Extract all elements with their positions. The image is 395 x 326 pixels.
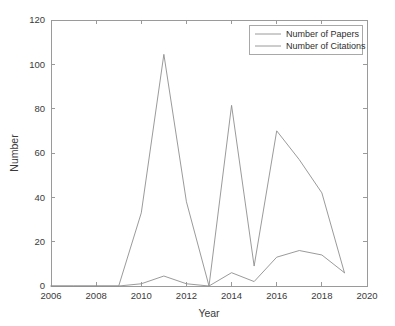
x-tick-label: 2020 — [356, 290, 377, 301]
data-series-group — [51, 54, 344, 286]
x-tick-label: 2012 — [176, 290, 197, 301]
x-axis-tick-labels: 20062008201020122014201620182020 — [40, 290, 377, 301]
y-axis-title: Number — [8, 134, 20, 172]
series-line — [51, 251, 344, 286]
y-tick-label: 60 — [34, 147, 45, 158]
y-tick-label: 100 — [29, 59, 45, 70]
x-tick-label: 2010 — [131, 290, 152, 301]
x-tick-label: 2006 — [40, 290, 61, 301]
y-tick-label: 40 — [34, 192, 45, 203]
x-tick-label: 2018 — [311, 290, 332, 301]
y-tick-label: 120 — [29, 14, 45, 25]
legend-item-label: Number of Papers — [286, 29, 360, 39]
line-chart: 020406080100120 200620082010201220142016… — [0, 0, 395, 326]
legend-item-label: Number of Citations — [286, 41, 366, 51]
axes-frame — [51, 20, 367, 286]
y-tick-label: 20 — [34, 236, 45, 247]
figure-canvas: 020406080100120 200620082010201220142016… — [0, 0, 395, 326]
x-axis-title: Year — [198, 307, 220, 319]
x-tick-label: 2016 — [266, 290, 287, 301]
axis-tick-marks — [51, 20, 367, 286]
y-axis-tick-labels: 020406080100120 — [29, 14, 45, 291]
chart-legend[interactable]: Number of PapersNumber of Citations — [249, 25, 366, 54]
y-tick-label: 80 — [34, 103, 45, 114]
x-tick-label: 2014 — [221, 290, 242, 301]
x-tick-label: 2008 — [86, 290, 107, 301]
series-line — [51, 54, 344, 286]
